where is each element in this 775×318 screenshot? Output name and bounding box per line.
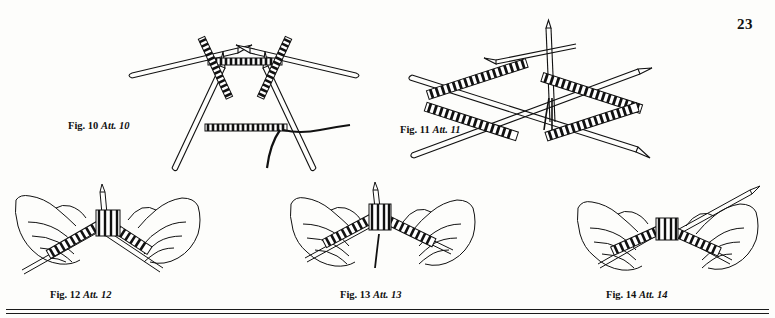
figure-14-label: Fig. 14: [606, 289, 636, 300]
book-page: 23: [0, 0, 775, 318]
figure-12-label: Fig. 12: [50, 289, 80, 300]
figure-12-caption: Fig. 12 Att. 12: [50, 289, 112, 300]
figure-10-label: Fig. 10: [68, 120, 98, 131]
figure-14-caption: Fig. 14 Att. 14: [606, 289, 668, 300]
figure-12-label-alt: Att. 12: [83, 289, 112, 300]
figure-12-illustration: [10, 178, 205, 286]
figure-10-caption: Fig. 10 Att. 10: [68, 120, 130, 131]
page-bottom-rule-secondary: [6, 313, 769, 314]
figure-11-label: Fig. 11: [400, 124, 430, 135]
figure-13-illustration: [285, 178, 480, 286]
figure-11-illustration: [400, 18, 660, 173]
page-number: 23: [737, 16, 753, 33]
figure-11-caption: Fig. 11 Att. 11: [400, 124, 460, 135]
figure-13-caption: Fig. 13 Att. 13: [340, 289, 402, 300]
figure-14-label-alt: Att. 14: [639, 289, 668, 300]
figure-10-label-alt: Att. 10: [101, 120, 130, 131]
figure-11-label-alt: Att. 11: [432, 124, 460, 135]
page-bottom-rule: [6, 309, 769, 310]
figure-14-illustration: [570, 178, 765, 286]
figure-13-label: Fig. 13: [340, 289, 370, 300]
figure-13-label-alt: Att. 13: [373, 289, 402, 300]
figure-10-illustration: [120, 18, 370, 173]
